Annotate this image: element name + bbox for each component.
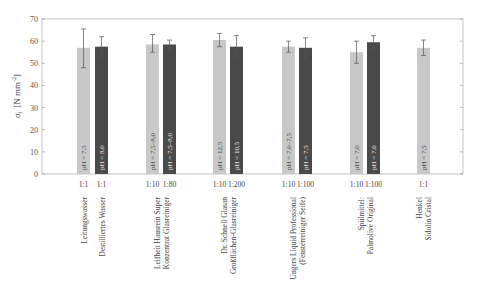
dilution-label: 1:10: [350, 180, 364, 189]
y-axis-label: σt[N mm-2]: [11, 74, 23, 118]
y-tick-label: 0: [34, 170, 38, 179]
dilution-label: 1:80: [163, 180, 177, 189]
ph-label: pH = 7,0–7,5: [285, 132, 293, 170]
bar-chart: 010203040506070 pH = 7,5pH = 8,0pH = 7,5…: [0, 0, 483, 300]
dilution-label: 1:100: [297, 180, 314, 189]
dilution-label: 1:100: [365, 180, 382, 189]
axes: 010203040506070: [30, 15, 463, 179]
category-label: Leifheit Hausrein Super: [153, 197, 162, 270]
ph-label: pH = 7,0: [353, 145, 361, 170]
dilution-label: 1:1: [79, 180, 89, 189]
bars: pH = 7,5pH = 8,0pH = 7,5–8,0pH = 7,5–8,0…: [77, 29, 430, 174]
y-tick-label: 60: [30, 37, 38, 46]
category-label: Destilliertes Wasser: [98, 197, 107, 257]
category-label: Konzentrat Glasreiniger: [162, 197, 171, 270]
category-label: Palmolive Original: [366, 197, 375, 254]
ph-label: pH = 10,5: [233, 141, 241, 170]
ph-label: pH = 7,5–8,0: [149, 132, 157, 170]
category-label: Sidolin Cristal: [424, 197, 433, 241]
category-label: Dr. Schnell Glasan: [220, 197, 229, 254]
y-tick-label: 70: [30, 15, 38, 24]
dilution-label: 1:10: [146, 180, 160, 189]
category-labels: 1:1Leitungswasser1:1Destilliertes Wasser…: [79, 180, 433, 280]
y-tick-label: 40: [30, 81, 38, 90]
category-label: Henkel: [415, 197, 424, 219]
y-tick-label: 30: [30, 104, 38, 113]
ph-label: pH = 12,5: [216, 141, 224, 170]
category-label: Spülmittel:: [357, 197, 366, 230]
dilution-label: 1:10: [213, 180, 227, 189]
y-tick-label: 50: [30, 59, 38, 68]
dilution-label: 1:10: [282, 180, 296, 189]
category-label: Leitungswasser: [80, 196, 89, 243]
category-label: Ungers Liquid Professional: [289, 197, 298, 280]
dilution-label: 1:1: [419, 180, 429, 189]
y-tick-label: 20: [30, 126, 38, 135]
ph-label: pH = 7,5: [302, 145, 310, 170]
ph-label: pH = 7,0: [370, 145, 378, 170]
category-label: (Fensterreiniger Seife): [298, 197, 307, 265]
ph-label: pH = 7,5–8,0: [166, 132, 174, 170]
ph-label: pH = 8,0: [98, 145, 106, 170]
category-label: Großflächen-Glasreiniger: [229, 197, 238, 275]
dilution-label: 1:200: [228, 180, 245, 189]
ph-label: pH = 7,5: [80, 145, 88, 170]
y-tick-label: 10: [30, 148, 38, 157]
ph-label: pH = 7,5: [420, 145, 428, 170]
dilution-label: 1:1: [97, 180, 107, 189]
